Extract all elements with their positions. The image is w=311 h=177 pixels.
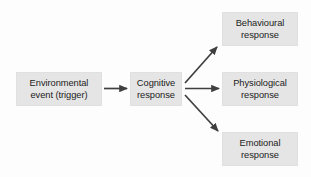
node-physiological-response-label: Physiological response [230,77,290,101]
node-cognitive-response: Cognitive response [130,72,182,106]
node-emotional-response: Emotional response [222,132,298,166]
node-behavioural-response: Behavioural response [222,12,298,46]
node-behavioural-response-label: Behavioural response [233,17,288,41]
node-environmental-event-label: Environmental event (trigger) [27,77,92,101]
node-emotional-response-label: Emotional response [237,137,284,161]
node-environmental-event: Environmental event (trigger) [16,72,102,106]
node-physiological-response: Physiological response [222,72,298,106]
node-cognitive-response-label: Cognitive response [134,77,178,101]
flowchart-diagram: Environmental event (trigger) Cognitive … [0,0,311,177]
arrow-cognitive-to-behavioural [185,47,217,83]
arrow-cognitive-to-emotional [185,95,218,131]
